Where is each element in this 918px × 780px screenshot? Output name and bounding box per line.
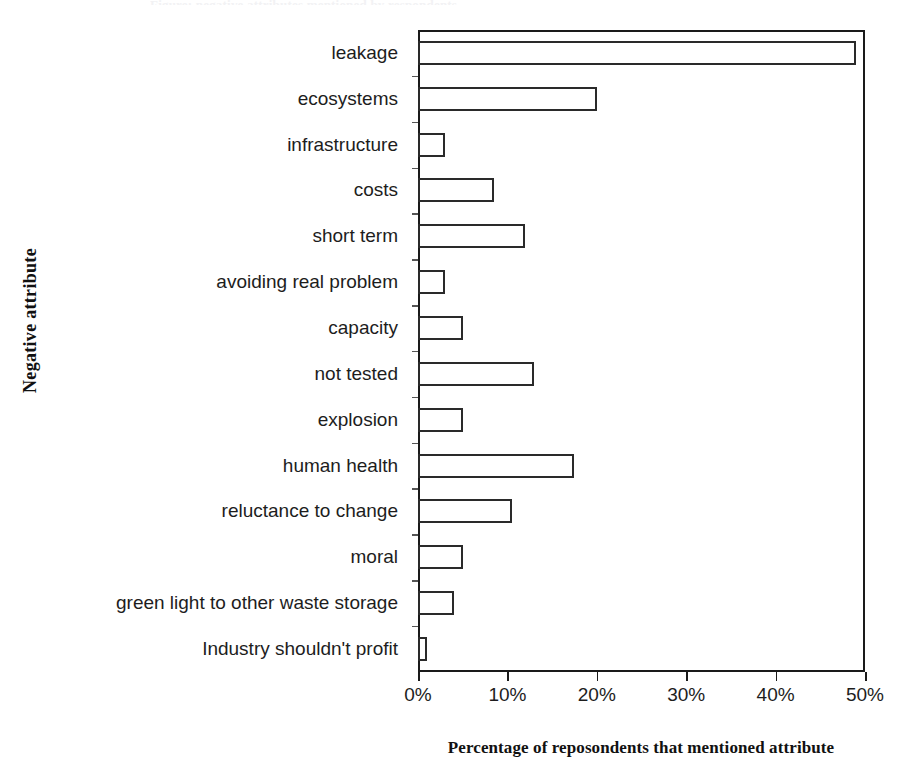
bar: [418, 178, 494, 202]
x-axis-tick-label: 30%: [667, 684, 705, 706]
bar-row: [418, 305, 865, 351]
bar-row: [418, 30, 865, 76]
y-tick-mark: [412, 443, 418, 445]
x-tick-mark: [686, 672, 688, 681]
y-axis-label: costs: [0, 168, 408, 214]
plot-area: [418, 30, 865, 672]
y-tick-mark: [412, 351, 418, 353]
bar: [418, 270, 445, 294]
y-tick-mark: [412, 168, 418, 170]
bar-row: [418, 351, 865, 397]
x-axis-tick-labels: 0%10%20%30%40%50%: [418, 684, 865, 710]
bar: [418, 362, 534, 386]
bar-row: [418, 488, 865, 534]
bar: [418, 408, 463, 432]
bar-row: [418, 76, 865, 122]
x-axis-title: Percentage of reposondents that mentione…: [376, 738, 906, 758]
bar: [418, 637, 427, 661]
bar-rows: [418, 30, 865, 672]
bar-chart-figure: Figure: negative attributes mentioned by…: [0, 0, 918, 780]
x-axis-tick-label: 20%: [578, 684, 616, 706]
y-tick-mark: [412, 488, 418, 490]
y-axis-label: explosion: [0, 397, 408, 443]
y-axis-label: infrastructure: [0, 122, 408, 168]
y-axis-label: green light to other waste storage: [0, 580, 408, 626]
bar: [418, 316, 463, 340]
x-tick-mark: [418, 672, 420, 681]
bar-row: [418, 122, 865, 168]
y-axis-label: ecosystems: [0, 76, 408, 122]
bar: [418, 545, 463, 569]
y-axis-label: moral: [0, 534, 408, 580]
y-tick-mark: [412, 305, 418, 307]
x-axis-ticks: [418, 672, 865, 682]
bar: [418, 499, 512, 523]
bar-row: [418, 213, 865, 259]
y-tick-mark: [412, 259, 418, 261]
x-tick-mark: [597, 672, 599, 681]
y-axis-label: capacity: [0, 305, 408, 351]
y-axis-label: reluctance to change: [0, 488, 408, 534]
x-axis-tick-label: 50%: [846, 684, 884, 706]
bar: [418, 133, 445, 157]
y-tick-mark: [412, 122, 418, 124]
bar-row: [418, 534, 865, 580]
y-tick-mark: [412, 213, 418, 215]
x-tick-mark: [865, 672, 867, 681]
bar-row: [418, 580, 865, 626]
bar-row: [418, 259, 865, 305]
bar-row: [418, 397, 865, 443]
bar: [418, 224, 525, 248]
bar: [418, 41, 856, 65]
y-axis-label: leakage: [0, 30, 408, 76]
y-axis-label: short term: [0, 213, 408, 259]
bar-row: [418, 443, 865, 489]
bar-row: [418, 626, 865, 672]
bar: [418, 454, 574, 478]
y-tick-mark: [412, 397, 418, 399]
y-axis-label: not tested: [0, 351, 408, 397]
y-axis-labels: leakageecosystemsinfrastructurecostsshor…: [0, 30, 408, 672]
y-axis-label: Industry shouldn't profit: [0, 626, 408, 672]
y-tick-mark: [412, 534, 418, 536]
x-axis-tick-label: 0%: [404, 684, 431, 706]
bar: [418, 591, 454, 615]
y-tick-mark: [412, 76, 418, 78]
bar: [418, 87, 597, 111]
y-tick-mark: [412, 626, 418, 628]
y-axis-label: avoiding real problem: [0, 259, 408, 305]
y-axis-label: human health: [0, 443, 408, 489]
bar-row: [418, 168, 865, 214]
y-tick-mark: [412, 580, 418, 582]
x-axis-tick-label: 10%: [488, 684, 526, 706]
x-tick-mark: [507, 672, 509, 681]
caption-remnant: Figure: negative attributes mentioned by…: [150, 0, 770, 5]
x-axis-tick-label: 40%: [757, 684, 795, 706]
x-tick-mark: [776, 672, 778, 681]
